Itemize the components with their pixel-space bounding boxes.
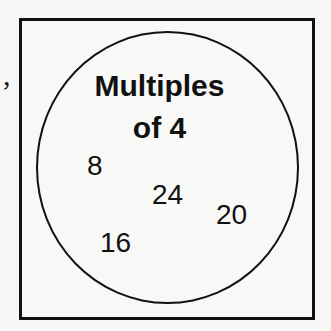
set-label-line2: of 4: [0, 112, 325, 144]
element-24: 24: [152, 180, 183, 210]
element-8: 8: [87, 151, 103, 181]
element-20: 20: [216, 200, 247, 230]
set-label-line1: Multiples: [0, 70, 325, 102]
element-16: 16: [100, 228, 131, 258]
